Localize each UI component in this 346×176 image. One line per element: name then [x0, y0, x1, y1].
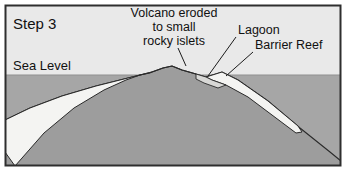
- barrier-reef-label: Barrier Reef: [255, 38, 323, 52]
- erosion-step-diagram: Step 3 Sea Level Volcano eroded to small…: [0, 0, 346, 176]
- volcano-label-line-3: rocky islets: [143, 34, 205, 48]
- volcano-label-line-2: to small: [152, 20, 195, 34]
- sea-level-label: Sea Level: [13, 58, 71, 73]
- volcano-label-line-1: Volcano eroded: [131, 6, 218, 20]
- lagoon-label: Lagoon: [238, 23, 280, 37]
- diagram-canvas: Step 3 Sea Level Volcano eroded to small…: [0, 0, 346, 176]
- step-title: Step 3: [13, 15, 56, 32]
